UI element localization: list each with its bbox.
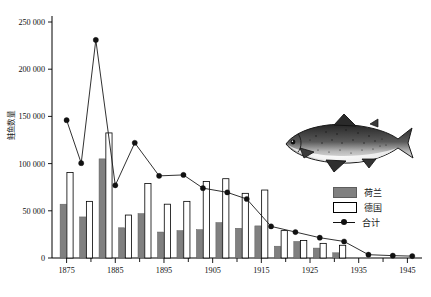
legend-label-netherlands: 荷兰	[364, 186, 382, 199]
bar-netherlands	[313, 248, 319, 258]
bar-germany	[203, 182, 209, 258]
y-tick-label: 150 000	[18, 112, 45, 121]
y-axis-title: 鲑鱼数量	[5, 104, 16, 148]
bar-germany	[320, 243, 326, 258]
legend-item-total: 合计	[333, 215, 425, 229]
bar-germany	[164, 204, 170, 258]
bar-netherlands	[177, 231, 183, 258]
bar-netherlands	[294, 241, 300, 258]
bar-netherlands	[60, 204, 66, 258]
fish-body	[286, 114, 413, 172]
bar-netherlands	[274, 246, 280, 258]
total-line-point	[317, 235, 322, 240]
total-line-point	[342, 239, 347, 244]
bar-germany	[184, 201, 190, 258]
bar-germany	[242, 193, 248, 258]
total-line-point	[410, 254, 415, 259]
x-tick-label: 1875	[58, 266, 74, 275]
bar-netherlands	[80, 217, 86, 258]
bar-germany	[86, 201, 92, 258]
total-line-point	[200, 186, 205, 191]
bar-netherlands	[157, 232, 163, 258]
bar-netherlands	[333, 253, 339, 258]
legend-item-netherlands: 荷兰	[333, 185, 425, 199]
legend-label-total: 合计	[362, 216, 380, 229]
x-tick-label: 1885	[107, 266, 123, 275]
salmon-illustration	[274, 112, 424, 174]
legend-label-germany: 德国	[364, 201, 382, 214]
x-axis: 18751885189519051915192519351945	[52, 258, 422, 275]
x-tick-label: 1915	[253, 266, 269, 275]
total-line-point	[157, 173, 162, 178]
y-tick-label: 250 000	[18, 18, 45, 27]
x-tick-label: 1935	[351, 266, 367, 275]
x-tick-label: 1895	[156, 266, 172, 275]
total-line-point	[268, 224, 273, 229]
bar-germany	[301, 241, 307, 258]
total-line-point	[79, 161, 84, 166]
total-line-point	[366, 252, 371, 257]
y-tick-label: 50 000	[22, 207, 45, 216]
bar-germany	[67, 173, 73, 258]
x-tick-label: 1905	[204, 266, 220, 275]
bar-netherlands	[119, 228, 125, 258]
y-axis: 050 000100 000150 000200 000250 000	[18, 16, 52, 263]
legend-swatch-germany-icon	[333, 202, 357, 213]
total-line-point	[93, 37, 98, 42]
bar-netherlands	[99, 159, 105, 258]
total-line-point	[181, 172, 186, 177]
bar-netherlands	[216, 223, 222, 258]
legend-swatch-total-icon	[333, 218, 355, 227]
bar-germany	[262, 190, 268, 258]
chart-legend: 荷兰 德国 合计	[333, 185, 425, 231]
x-tick-label: 1945	[399, 266, 415, 275]
bar-germany	[281, 231, 287, 258]
total-line-point	[293, 229, 298, 234]
total-line-point	[64, 118, 69, 123]
bar-germany	[145, 183, 151, 258]
bar-netherlands	[255, 226, 261, 258]
total-line-point	[244, 196, 249, 201]
total-line-point	[390, 253, 395, 258]
legend-item-germany: 德国	[333, 200, 425, 214]
total-line-point	[225, 190, 230, 195]
total-line-point	[132, 140, 137, 145]
y-tick-label: 0	[41, 254, 45, 263]
bar-netherlands	[235, 228, 241, 258]
chart-figure: 050 000100 000150 000200 000250 000 1875…	[0, 0, 431, 297]
y-tick-label: 200 000	[18, 65, 45, 74]
x-tick-label: 1925	[302, 266, 318, 275]
bar-germany	[125, 215, 131, 258]
bar-netherlands	[196, 230, 202, 258]
y-tick-label: 100 000	[18, 160, 45, 169]
bar-germany	[340, 245, 346, 258]
total-line-point	[113, 183, 118, 188]
legend-swatch-netherlands-icon	[333, 187, 357, 198]
bar-netherlands	[138, 214, 144, 258]
